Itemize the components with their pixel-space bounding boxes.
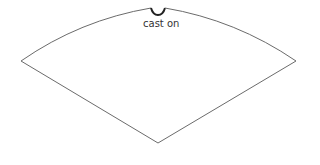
cast-on-notch (151, 8, 165, 15)
right-edge (158, 61, 296, 143)
top-arc-right (165, 8, 296, 61)
left-edge (21, 61, 158, 143)
cast-on-label: cast on (143, 18, 179, 29)
top-arc-left (21, 8, 151, 61)
